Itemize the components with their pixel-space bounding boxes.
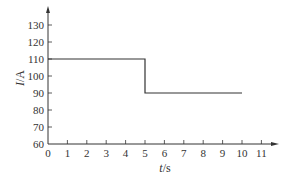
y-tick-label: 100 [28,70,45,82]
y-tick-label: 130 [28,19,45,31]
y-axis-label: I/A [13,70,27,87]
x-tick-label: 9 [220,147,226,159]
y-tick-label: 70 [33,121,45,133]
y-tick-label: 80 [33,104,45,116]
x-tick-label: 8 [200,147,206,159]
x-tick-label: 4 [123,147,129,159]
x-tick-label: 7 [181,147,187,159]
y-axis-arrow-icon [46,6,50,13]
y-tick-label: 120 [28,36,45,48]
x-tick-label: 3 [103,147,109,159]
x-tick-label: 6 [162,147,168,159]
current-step-line [48,59,242,93]
x-axis-arrow-icon [271,142,279,146]
x-tick-label: 11 [256,147,267,159]
chart: 60708090100110120130 01234567891011 I/A … [0,0,288,185]
x-ticks: 01234567891011 [45,140,266,159]
y-tick-label: 110 [28,53,45,65]
x-tick-label: 2 [84,147,90,159]
y-tick-label: 90 [33,87,45,99]
x-tick-label: 0 [45,147,51,159]
x-tick-label: 5 [142,147,148,159]
y-tick-label: 60 [33,138,45,150]
x-tick-label: 1 [65,147,71,159]
x-tick-label: 10 [237,147,249,159]
x-axis-label: t/s [159,161,171,175]
